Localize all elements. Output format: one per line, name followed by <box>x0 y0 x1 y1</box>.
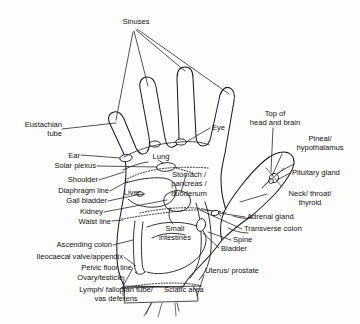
label-stomach-pancreas-duodenum: Stomach / pancreas / duodenum <box>157 170 221 198</box>
label-lymph-fallopian-vas: Lymph/ fallopian tube/ vas deferens <box>56 285 176 304</box>
label-transverse-colon: Transverse colon <box>244 224 340 233</box>
label-spine: Spine <box>233 235 281 244</box>
label-ascending-colon: Ascending colon <box>16 240 112 249</box>
leader-sciatic-area <box>177 303 179 311</box>
label-small-intestines: Small intestines <box>146 224 204 243</box>
leader-eustachian-tube <box>62 123 116 129</box>
label-diaphragm-line: Diaphragm line <box>18 186 109 195</box>
label-neck-throat-thyroid: Neck/ throat/ thyroid <box>268 189 352 208</box>
label-gall-bladder: Gall bladder <box>30 196 107 205</box>
label-ovary-testicle: Ovary/testicle <box>44 273 123 282</box>
leader-sinuses-1 <box>116 32 133 120</box>
label-eustachian-tube: Eustachian tube <box>4 120 62 139</box>
label-pelvic-floor-line: Pelvic floor line <box>40 263 132 272</box>
label-top-of-head-and-brain: Top of head and brain <box>232 109 318 128</box>
label-solar-plexus: Solar plexus <box>22 161 96 170</box>
label-liver: Liver <box>110 188 154 197</box>
label-ileocaecal-valve-appendix: Ileocaecal valve/appendix <box>2 252 123 261</box>
label-adrenal-gland: Adrenal gland <box>247 212 329 221</box>
lymph-line-b <box>158 303 162 317</box>
label-sciatic-area: Sciatic area <box>164 285 232 294</box>
leader-shoulder <box>99 172 124 180</box>
label-eye: Eye <box>212 123 242 132</box>
label-pineal-hypothalamus: Pineal/ hypothalamus <box>283 134 357 153</box>
label-shoulder: Shoulder <box>38 175 98 184</box>
label-kidney: Kidney <box>42 207 103 216</box>
sciatic-line <box>175 303 176 316</box>
label-sinuses: Sinuses <box>108 17 164 26</box>
label-bladder: Bladder <box>221 244 281 253</box>
leader-ear <box>81 155 120 158</box>
label-uterus-prostate: Uterus/ prostate <box>205 266 287 275</box>
leader-lymph <box>146 303 151 314</box>
label-waist-line: Waist line <box>36 217 111 226</box>
leader-sinuses-3 <box>136 30 185 71</box>
label-ear: Ear <box>22 151 80 160</box>
label-lung: Lung <box>141 152 181 161</box>
reflexology-hand-diagram: Sinuses Eustachian tube Ear Solar plexus… <box>0 0 360 324</box>
leader-sinuses-2 <box>134 31 148 86</box>
label-pituitary-gland: Pituitary gland <box>292 168 360 177</box>
